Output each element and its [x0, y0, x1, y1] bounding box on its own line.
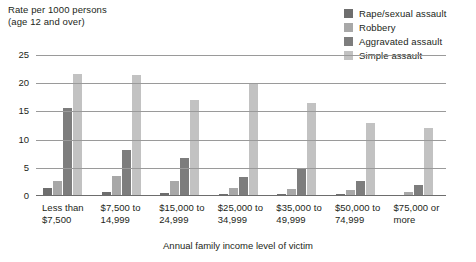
bar	[112, 176, 121, 196]
bar	[297, 168, 306, 196]
legend-item[interactable]: Rape/sexual assault	[344, 6, 476, 20]
gridline	[36, 55, 446, 56]
gridline	[36, 111, 446, 112]
y-axis-tick: 10	[18, 135, 29, 145]
bar	[132, 75, 141, 196]
bar	[73, 74, 82, 196]
x-axis-title: Annual family income level of victim	[0, 240, 476, 251]
bar-groups	[36, 55, 446, 196]
bar-group	[95, 55, 154, 196]
y-axis-tick: 15	[18, 106, 29, 116]
bar	[180, 158, 189, 196]
y-axis-title-line2: (age 12 and over)	[8, 16, 85, 27]
y-axis-tick: 20	[18, 78, 29, 88]
bar	[63, 108, 72, 196]
legend-item[interactable]: Aggravated assault	[344, 34, 476, 48]
x-axis-tick: $25,000 to 34,999	[212, 202, 271, 232]
bar	[424, 128, 433, 196]
y-axis-title: Rate per 1000 persons(age 12 and over)	[8, 4, 107, 28]
chart-legend: Rape/sexual assaultRobberyAggravated ass…	[344, 6, 476, 62]
bar	[53, 181, 62, 196]
y-axis-tick: 25	[18, 50, 29, 60]
x-axis-tick: $35,000 to 49,999	[270, 202, 329, 232]
x-axis-tick: $75,000 or more	[387, 202, 446, 232]
bar-group	[153, 55, 212, 196]
bar	[366, 123, 375, 196]
bar	[190, 100, 199, 196]
gridline	[36, 140, 446, 141]
legend-swatch-icon	[344, 37, 353, 46]
x-axis-line	[36, 195, 446, 196]
legend-item-label: Robbery	[359, 22, 396, 33]
bar-group	[329, 55, 388, 196]
bar	[307, 103, 316, 196]
x-axis-tick: $7,500 to 14,999	[95, 202, 154, 232]
bar-group	[36, 55, 95, 196]
bar-group	[270, 55, 329, 196]
x-axis-tick: $15,000 to 24,999	[153, 202, 212, 232]
y-axis-tick-labels: 0510152025	[0, 55, 33, 196]
x-axis-tick: Less than $7,500	[36, 202, 95, 232]
bar	[122, 150, 131, 196]
bar	[239, 177, 248, 196]
legend-item-label: Aggravated assault	[359, 36, 442, 47]
gridline	[36, 83, 446, 84]
y-axis-tick: 5	[24, 163, 29, 173]
bar-chart: Rate per 1000 persons(age 12 and over) R…	[0, 0, 476, 262]
bar-group	[212, 55, 271, 196]
legend-swatch-icon	[344, 23, 353, 32]
gridline	[36, 168, 446, 169]
x-axis-tick-labels: Less than $7,500$7,500 to 14,999$15,000 …	[36, 202, 446, 232]
x-axis-tick: $50,000 to 74,999	[329, 202, 388, 232]
bar	[170, 181, 179, 196]
plot-area	[36, 55, 446, 196]
bar-group	[387, 55, 446, 196]
y-axis-tick: 0	[24, 191, 29, 201]
legend-item[interactable]: Robbery	[344, 20, 476, 34]
legend-item-label: Rape/sexual assault	[359, 8, 446, 19]
y-axis-title-line1: Rate per 1000 persons	[8, 4, 107, 15]
bar	[356, 181, 365, 196]
legend-swatch-icon	[344, 9, 353, 18]
